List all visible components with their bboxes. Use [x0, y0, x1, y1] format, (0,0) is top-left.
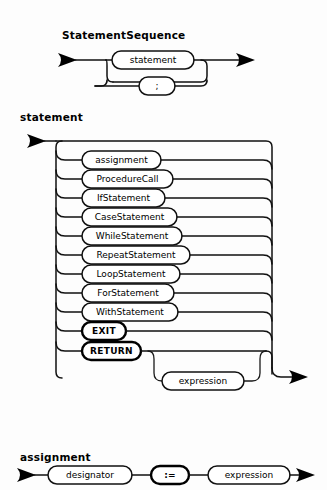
node-alt-ifstatement-label: IfStatement	[97, 193, 151, 203]
node-alt-procedurecall-label: ProcedureCall	[96, 174, 158, 184]
row-alt-whilestatement: WhileStatement	[56, 227, 272, 245]
node-alt-exit-label: EXIT	[92, 326, 116, 336]
rule-title-statement: statement	[20, 111, 83, 123]
entry-arrow-assignment	[17, 468, 49, 482]
node-alt-loopstatement-label: LoopStatement	[97, 269, 166, 279]
row-alt-loopstatement: LoopStatement	[56, 265, 272, 283]
diagram-statement-sequence: StatementSequence statement	[58, 29, 255, 95]
node-asg-becomes: :=	[151, 466, 189, 484]
diagram-statement: statement assignment Pro	[20, 111, 308, 390]
node-asg-expression: expression	[208, 466, 290, 484]
node-asg-becomes-label: :=	[164, 470, 176, 480]
node-alt-assignment-label: assignment	[95, 155, 148, 165]
row-alt-assignment: assignment	[56, 151, 272, 169]
syntax-diagram-page: StatementSequence statement	[0, 0, 327, 490]
railroad-diagram-canvas: StatementSequence statement	[0, 0, 327, 490]
entry-arrow-statement-sequence	[58, 53, 106, 67]
row-alt-exit: EXIT	[56, 322, 272, 340]
row-alt-withstatement: WithStatement	[56, 303, 272, 321]
rail-statement-merge-to-exit	[272, 368, 294, 377]
entry-arrow-statement	[27, 134, 56, 148]
diagram-assignment: assignment designator := expressio	[17, 451, 315, 484]
node-asg-expression-label: expression	[225, 470, 274, 480]
node-asg-designator: designator	[48, 466, 132, 484]
node-ss-statement-label: statement	[130, 55, 177, 65]
node-ss-semicolon: ;	[139, 77, 175, 95]
row-opt-expression: expression	[148, 351, 266, 390]
row-alt-casestatement: CaseStatement	[56, 208, 272, 226]
row-alt-forstatement: ForStatement	[56, 284, 272, 302]
node-alt-withstatement-label: WithStatement	[96, 307, 164, 317]
node-alt-repeatstatement-label: RepeatStatement	[96, 250, 176, 260]
node-ss-statement: statement	[112, 51, 194, 69]
rule-title-statement-sequence: StatementSequence	[62, 29, 185, 41]
node-alt-casestatement-label: CaseStatement	[95, 212, 165, 222]
row-alt-return: RETURN	[56, 342, 266, 360]
node-ss-semicolon-label: ;	[155, 81, 158, 91]
row-alt-repeatstatement: RepeatStatement	[56, 246, 272, 264]
rail-statement-return-merge	[266, 351, 272, 368]
rail-ss-semi-left-stub	[95, 80, 107, 86]
rail-ss-semi-out	[175, 80, 207, 86]
row-alt-procedurecall: ProcedureCall	[56, 170, 272, 188]
node-alt-return-label: RETURN	[90, 346, 133, 356]
rule-title-assignment: assignment	[20, 451, 91, 463]
row-alt-ifstatement: IfStatement	[56, 189, 272, 207]
node-opt-expression-label: expression	[179, 376, 228, 386]
node-alt-whilestatement-label: WhileStatement	[96, 231, 169, 241]
node-alt-forstatement-label: ForStatement	[97, 288, 159, 298]
node-asg-designator-label: designator	[66, 470, 114, 480]
